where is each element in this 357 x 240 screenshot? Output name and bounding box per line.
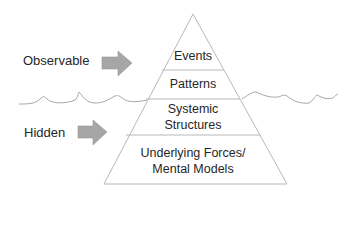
layer-patterns: Patterns <box>153 76 233 92</box>
layer-structures-line2: Structures <box>143 117 243 133</box>
layer-forces-line1: Underlying Forces/ <box>128 145 258 161</box>
layer-events-label: Events <box>174 49 212 63</box>
layer-events: Events <box>163 48 223 64</box>
layer-systemic-structures: Systemic Structures <box>143 101 243 133</box>
observable-label: Observable <box>23 54 89 67</box>
layer-structures-line1: Systemic <box>143 101 243 117</box>
layer-patterns-label: Patterns <box>170 77 217 91</box>
layer-forces-line2: Mental Models <box>128 161 258 177</box>
waterline-right-icon <box>242 92 338 103</box>
layer-underlying-forces: Underlying Forces/ Mental Models <box>128 145 258 177</box>
hidden-arrow-icon <box>78 120 107 145</box>
hidden-label: Hidden <box>24 126 65 139</box>
observable-arrow-icon <box>102 51 132 76</box>
waterline-left-icon <box>19 92 147 104</box>
